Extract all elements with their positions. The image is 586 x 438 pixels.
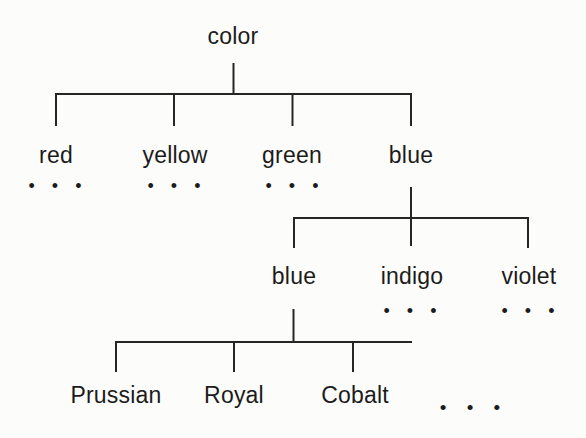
tree-node-prussian: Prussian	[70, 382, 161, 408]
tree-node-cobalt: Cobalt	[321, 382, 389, 408]
ellipsis-dots-violet: • • •	[502, 302, 555, 320]
ellipsis-dots-indigo: • • •	[384, 302, 437, 320]
tree-diagram: color red yellow green blue • • • • • • …	[0, 0, 586, 438]
tree-node-red: red	[39, 142, 73, 168]
ellipsis-dots-red: • • •	[29, 177, 82, 195]
tree-node-violet: violet	[502, 263, 557, 289]
ellipsis-dots-green: • • •	[266, 177, 319, 195]
tree-node-blue-child: blue	[272, 263, 316, 289]
tree-node-royal: Royal	[204, 382, 264, 408]
tree-node-indigo: indigo	[381, 263, 444, 289]
tree-node-blue: blue	[389, 142, 433, 168]
tree-node-green: green	[262, 142, 322, 168]
tree-connectors	[0, 0, 586, 438]
tree-node-color: color	[208, 23, 259, 49]
ellipsis-dots-yellow: • • •	[148, 177, 201, 195]
tree-node-yellow: yellow	[142, 142, 207, 168]
ellipsis-dots-level3: • • •	[440, 399, 501, 417]
